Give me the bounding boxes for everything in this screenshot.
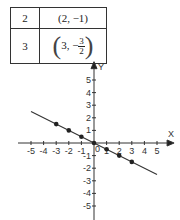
x-axis-arrow-icon [167,140,174,146]
coordinate-plane: -5-5-4-4-3-3-2-2-1-111223344550XY [0,0,180,220]
y-tick-label: 3 [86,100,91,110]
data-point [79,134,84,139]
data-point [117,153,122,158]
x-tick-label: -2 [65,146,73,156]
y-tick-label: 4 [86,88,91,98]
y-tick-label: -1 [83,151,91,161]
y-tick-label: 5 [86,75,91,85]
x-tick-label: 4 [142,146,147,156]
y-tick-label: -4 [83,188,91,198]
y-tick-label: -5 [83,201,91,211]
x-tick-label: 5 [154,146,159,156]
x-tick-label: -3 [52,146,60,156]
x-tick-label: -4 [40,146,48,156]
data-point [104,147,109,152]
x-tick-label: 3 [129,146,134,156]
y-tick-label: 2 [86,113,91,123]
y-axis-label: Y [98,62,104,72]
y-tick-label: -3 [83,176,91,186]
y-tick-label: -2 [83,163,91,173]
y-axis-arrow-icon [91,62,97,69]
data-point [67,128,72,133]
data-point [54,122,59,127]
y-tick-label: 1 [86,125,91,135]
x-axis-label: X [168,129,174,139]
data-point [130,160,135,165]
data-point [92,141,97,146]
x-tick-label: -5 [27,146,35,156]
